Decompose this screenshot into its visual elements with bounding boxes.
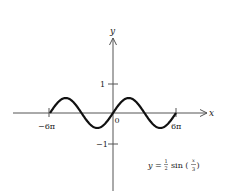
x-tick-label-neg6pi: −6π: [38, 122, 55, 131]
sine-graph: y x 1 −1 0 −6π 6π y = 1 2 sin ( x 3 ): [0, 0, 227, 195]
svg-text:x: x: [192, 157, 195, 163]
y-axis-label: y: [109, 26, 116, 36]
svg-text:sin (: sin (: [171, 161, 188, 170]
svg-text:1: 1: [165, 158, 168, 164]
svg-text:2: 2: [165, 165, 168, 171]
svg-text:): ): [197, 161, 200, 170]
svg-text:y =: y =: [147, 161, 162, 170]
equation-label: y = 1 2 sin ( x 3 ): [147, 157, 200, 172]
svg-text:3: 3: [192, 166, 195, 172]
y-tick-label-neg1: −1: [96, 140, 108, 149]
x-axis-label: x: [209, 108, 214, 118]
x-tick-label-6pi: 6π: [171, 122, 181, 131]
y-tick-label-1: 1: [100, 80, 105, 89]
origin-label: 0: [115, 116, 120, 125]
